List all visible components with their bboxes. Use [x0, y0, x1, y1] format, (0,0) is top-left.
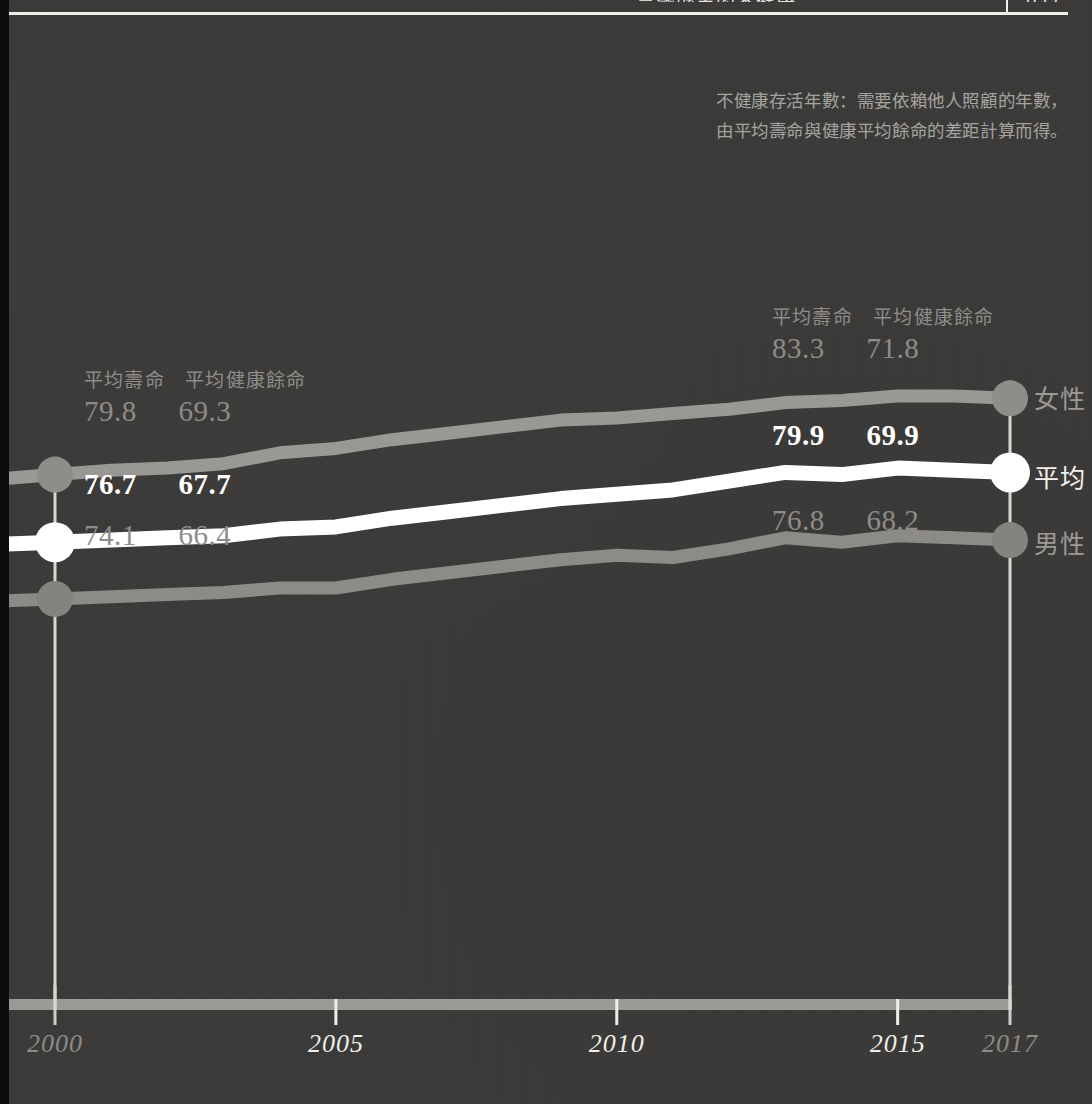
- chart-svg: [0, 0, 1092, 1104]
- value-label-numbers: 79.9 69.9: [772, 418, 919, 452]
- female-2017-life: 83.3: [772, 332, 825, 364]
- value-label-numbers: 76.7 67.7: [84, 467, 231, 501]
- series-label-female: 女性: [1034, 379, 1086, 415]
- male-2000-healthy: 66.4: [179, 519, 232, 551]
- x-tick-label-2015: 2015: [870, 1029, 926, 1059]
- line-chart: [0, 0, 1092, 1104]
- average-2000-healthy: 67.7: [179, 468, 232, 500]
- header-healthy-life-expectancy: 平均健康餘命: [873, 307, 994, 328]
- female-2000-healthy: 69.3: [179, 395, 232, 427]
- x-tick-label-2010: 2010: [589, 1029, 645, 1059]
- male-2000-life: 74.1: [84, 519, 137, 551]
- average-2000-life: 76.7: [84, 468, 137, 500]
- endpoint-marker-female: [37, 457, 73, 493]
- value-label-numbers: 74.1 66.4: [84, 518, 231, 552]
- endpoint-marker-average: [35, 522, 75, 562]
- x-tick-label-2000: 2000: [27, 1029, 83, 1059]
- value-label-headers: 平均壽命 平均健康餘命: [772, 305, 995, 331]
- x-tick-label-2017: 2017: [982, 1029, 1038, 1059]
- average-2017-healthy: 69.9: [867, 419, 920, 451]
- value-label-numbers: 83.3 71.8: [772, 331, 995, 365]
- x-axis-bar: [0, 999, 1012, 1010]
- value-label-female-2000: 平均壽命 平均健康餘命 79.8 69.3: [84, 368, 307, 428]
- female-2000-life: 79.8: [84, 395, 137, 427]
- header-healthy-life-expectancy: 平均健康餘命: [185, 370, 306, 391]
- series-label-male: 男性: [1034, 524, 1086, 560]
- value-label-average-2017: 79.9 69.9: [772, 418, 919, 452]
- endpoint-marker-female: [992, 380, 1028, 416]
- value-label-numbers: 76.8 68.2: [772, 503, 919, 537]
- female-2017-healthy: 71.8: [867, 332, 920, 364]
- value-label-male-2000: 74.1 66.4: [84, 518, 231, 552]
- endpoint-marker-male: [992, 522, 1028, 558]
- x-axis-tick: [615, 999, 618, 1025]
- value-label-male-2017: 76.8 68.2: [772, 503, 919, 537]
- header-life-expectancy: 平均壽命: [84, 370, 165, 391]
- header-life-expectancy: 平均壽命: [772, 307, 853, 328]
- endpoint-marker-male: [37, 581, 73, 617]
- value-label-average-2000: 76.7 67.7: [84, 467, 231, 501]
- page-left-edge: [0, 0, 9, 1104]
- male-2017-life: 76.8: [772, 504, 825, 536]
- series-label-average: 平均: [1034, 458, 1086, 494]
- infographic-page: 臺灣縣市的不健康 099 不健康存活年數：需要依賴他人照顧的年數， 由平均壽命與…: [0, 0, 1092, 1104]
- average-2017-life: 79.9: [772, 419, 825, 451]
- value-label-numbers: 79.8 69.3: [84, 394, 307, 428]
- endpoint-marker-average: [990, 452, 1030, 492]
- value-label-female-2017: 平均壽命 平均健康餘命 83.3 71.8: [772, 305, 995, 365]
- x-axis-tick: [334, 999, 337, 1025]
- male-2017-healthy: 68.2: [867, 504, 920, 536]
- x-axis-tick: [896, 999, 899, 1025]
- value-label-headers: 平均壽命 平均健康餘命: [84, 368, 307, 394]
- x-tick-label-2005: 2005: [308, 1029, 364, 1059]
